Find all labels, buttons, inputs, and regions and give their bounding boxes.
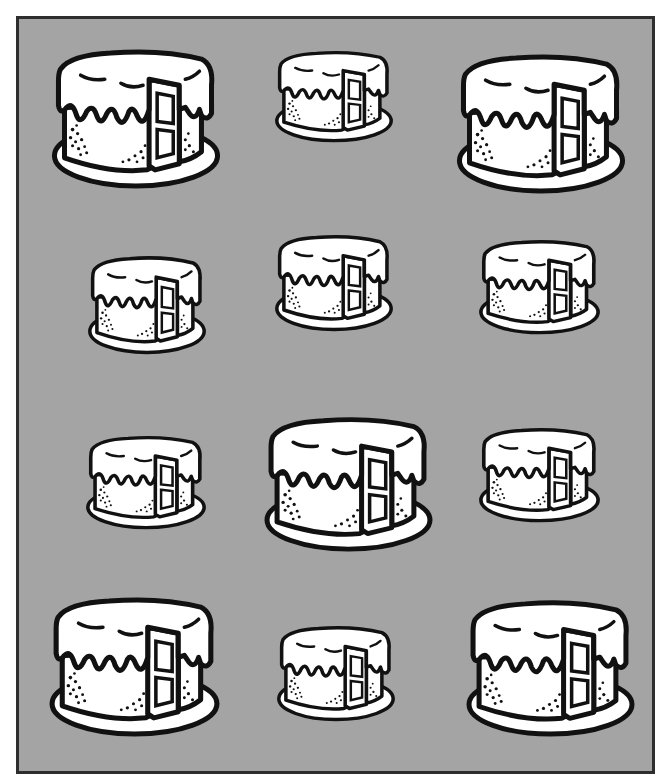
image-description: Grid of twelve black-and-white line-art … [0, 0, 1, 1]
cake-illustration [50, 45, 222, 191]
cake-illustration [85, 433, 207, 531]
cake-illustration [87, 253, 207, 356]
cake-illustration [263, 413, 434, 554]
cake-illustration [274, 48, 394, 144]
cake-illustration [478, 237, 601, 336]
cake-illustration [274, 232, 394, 333]
cake-illustration [465, 596, 636, 739]
cake-illustration [276, 623, 396, 723]
cake-illustration [455, 50, 627, 196]
cake-illustration [48, 593, 221, 739]
cake-illustration [478, 425, 601, 524]
